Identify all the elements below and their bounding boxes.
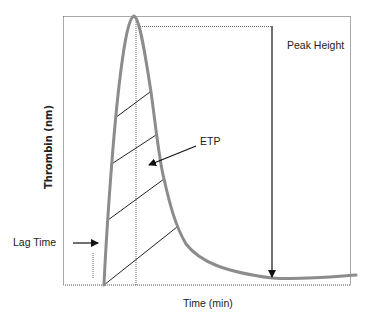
etp-label: ETP xyxy=(200,136,220,147)
x-axis-label: Time (min) xyxy=(183,298,233,309)
thrombin-curve xyxy=(104,16,356,285)
y-axis-label: Thrombin (nm) xyxy=(44,109,54,189)
hatch-line xyxy=(104,227,177,285)
etp-arrow xyxy=(149,146,196,165)
hatch-line xyxy=(115,92,150,118)
hatch-line xyxy=(108,179,164,220)
hatch-line xyxy=(110,135,156,165)
lag-time-label: Lag Time xyxy=(13,237,56,248)
peak-height-label: Peak Height xyxy=(287,40,344,51)
